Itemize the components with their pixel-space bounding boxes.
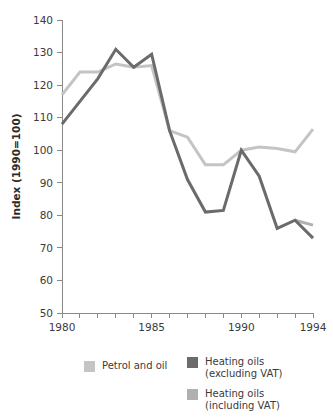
line-chart: 5060708090100110120130140 19801985199019…: [0, 0, 333, 420]
y-axis-title: Index (1990=100): [10, 114, 22, 220]
legend-label-heating-oils-including-vat: Heating oils (including VAT): [205, 388, 280, 412]
y-tick-label: 130: [33, 46, 53, 58]
x-axis-tick-labels: 1980198519901994: [49, 321, 327, 333]
legend-label-petrol-and-oil: Petrol and oil: [102, 360, 167, 372]
y-tick-label: 90: [40, 177, 53, 189]
legend-item-petrol-and-oil: Petrol and oil: [84, 360, 167, 372]
x-tick-label: 1994: [300, 321, 327, 333]
y-tick-label: 140: [33, 14, 53, 26]
y-axis-tick-marks: [57, 20, 62, 313]
legend-label-heating-oils-excluding-vat: Heating oils (excluding VAT): [205, 356, 283, 380]
y-tick-label: 60: [40, 274, 53, 286]
legend-swatch-petrol-and-oil: [84, 361, 95, 372]
y-tick-label: 110: [33, 111, 53, 123]
data-series-group: [62, 49, 313, 238]
y-tick-label: 120: [33, 79, 53, 91]
legend-item-heating-oils-excluding-vat: Heating oils (excluding VAT): [187, 356, 283, 380]
y-tick-label: 70: [40, 242, 53, 254]
legend-swatch-heating-oils-excluding-vat: [187, 357, 198, 368]
chart-legend: Petrol and oil Heating oils (excluding V…: [0, 352, 333, 420]
y-tick-label: 50: [40, 307, 53, 319]
x-axis-tick-marks: [62, 313, 313, 318]
y-axis-tick-labels: 5060708090100110120130140: [33, 14, 53, 319]
x-tick-label: 1990: [228, 321, 255, 333]
legend-swatch-heating-oils-including-vat: [187, 389, 198, 400]
series-line-petrol-and-oil: [62, 64, 313, 165]
legend-item-heating-oils-including-vat: Heating oils (including VAT): [187, 388, 280, 412]
y-tick-label: 80: [40, 209, 53, 221]
chart-plot-area: 5060708090100110120130140 19801985199019…: [0, 0, 333, 348]
x-tick-label: 1985: [138, 321, 165, 333]
y-tick-label: 100: [33, 144, 53, 156]
x-tick-label: 1980: [49, 321, 76, 333]
series-line-heating-oils-excluding-vat: [62, 49, 313, 238]
